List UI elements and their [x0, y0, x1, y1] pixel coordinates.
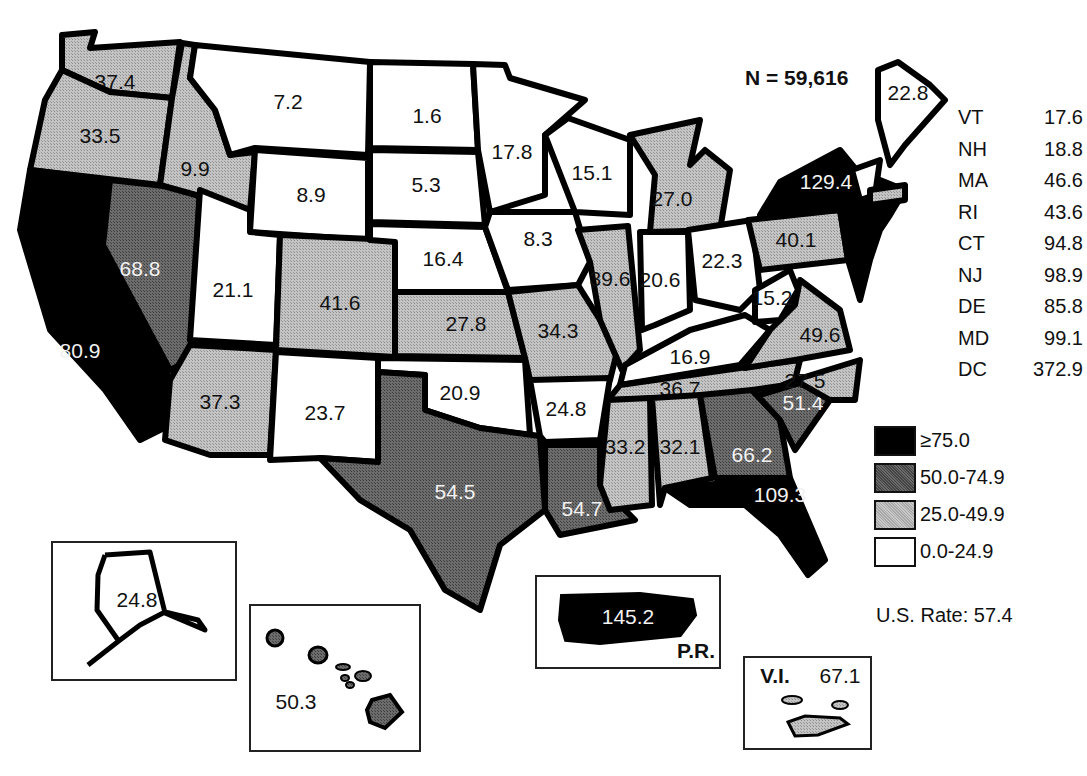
small-state-row: MA46.6 [958, 165, 1083, 197]
svg-text:22.8: 22.8 [888, 81, 929, 104]
state-MS: 33.2 [600, 398, 652, 510]
svg-text:24.8: 24.8 [546, 397, 587, 420]
us-rate-label: U.S. Rate: 57.4 [876, 604, 1013, 627]
state-WY: 8.9 [250, 150, 368, 240]
legend-item: 25.0-49.9 [874, 496, 1005, 533]
svg-text:37.3: 37.3 [200, 390, 241, 413]
legend-swatch-light-gray [874, 500, 916, 530]
small-states-table: VT17.6 NH18.8 MA46.6 RI43.6 CT94.8 NJ98.… [958, 102, 1083, 386]
state-FL: 109.3 [665, 478, 825, 575]
svg-text:27.8: 27.8 [446, 312, 487, 335]
inset-virgin-islands: V.I. 67.1 [744, 657, 871, 749]
svg-text:33.5: 33.5 [80, 124, 121, 147]
svg-text:27.5: 27.5 [785, 369, 826, 392]
small-state-row: DE85.8 [958, 291, 1083, 323]
svg-text:66.2: 66.2 [732, 443, 773, 466]
us-choropleth-map: 37.4 33.5 80.9 68.8 9.9 7.2 8.9 21.1 41.… [0, 0, 1087, 776]
svg-text:39.6: 39.6 [590, 267, 631, 290]
svg-text:67.1: 67.1 [820, 664, 861, 687]
inset-alaska: 24.8 [52, 542, 236, 680]
legend-item: ≥75.0 [874, 422, 1005, 459]
svg-text:16.9: 16.9 [670, 345, 711, 368]
svg-text:80.9: 80.9 [60, 339, 101, 362]
svg-text:34.3: 34.3 [538, 319, 579, 342]
legend-swatch-white [874, 537, 916, 567]
state-MI: 27.0 [630, 120, 730, 232]
svg-text:9.9: 9.9 [180, 157, 209, 180]
state-WI: 15.1 [545, 118, 630, 215]
svg-text:23.7: 23.7 [305, 401, 346, 424]
svg-text:129.4: 129.4 [800, 170, 853, 193]
state-IA: 8.3 [485, 212, 590, 290]
svg-text:33.2: 33.2 [605, 435, 646, 458]
svg-text:68.8: 68.8 [120, 257, 161, 280]
svg-text:32.1: 32.1 [660, 435, 701, 458]
svg-text:50.3: 50.3 [276, 690, 317, 713]
small-state-row: VT17.6 [958, 102, 1083, 134]
svg-text:40.1: 40.1 [776, 228, 817, 251]
inset-hawaii: 50.3 [250, 605, 420, 751]
state-NM: 23.7 [270, 352, 378, 462]
total-count-label: N = 59,616 [745, 66, 848, 90]
small-state-row: RI43.6 [958, 197, 1083, 229]
svg-text:8.9: 8.9 [296, 183, 325, 206]
svg-text:15.2: 15.2 [752, 286, 793, 309]
svg-text:20.6: 20.6 [640, 268, 681, 291]
svg-text:P.R.: P.R. [677, 639, 715, 662]
svg-text:27.0: 27.0 [652, 187, 693, 210]
svg-text:21.1: 21.1 [213, 278, 254, 301]
svg-text:15.1: 15.1 [572, 161, 613, 184]
svg-text:41.6: 41.6 [320, 291, 361, 314]
state-ND: 1.6 [370, 62, 478, 150]
svg-text:5.3: 5.3 [411, 173, 440, 196]
state-KS: 27.8 [395, 292, 525, 358]
state-ME: 22.8 [878, 62, 945, 165]
svg-text:1.6: 1.6 [412, 104, 441, 127]
svg-text:49.6: 49.6 [800, 323, 841, 346]
legend-item: 0.0-24.9 [874, 533, 1005, 570]
svg-text:8.3: 8.3 [523, 227, 552, 250]
state-IN: 20.6 [640, 232, 690, 330]
svg-text:54.7: 54.7 [562, 497, 603, 520]
small-state-row: MD99.1 [958, 323, 1083, 355]
small-state-row: CT94.8 [958, 228, 1083, 260]
small-state-row: DC372.9 [958, 354, 1083, 386]
small-state-row: NJ98.9 [958, 260, 1083, 292]
svg-text:22.3: 22.3 [702, 249, 743, 272]
svg-text:24.8: 24.8 [117, 588, 158, 611]
state-AR: 24.8 [530, 378, 610, 442]
inset-puerto-rico: 145.2 P.R. [536, 576, 720, 668]
state-AZ: 37.3 [165, 345, 276, 455]
svg-text:17.8: 17.8 [492, 140, 533, 163]
legend: ≥75.0 50.0-74.9 25.0-49.9 0.0-24.9 [874, 422, 1005, 570]
svg-text:109.3: 109.3 [754, 483, 807, 506]
legend-swatch-black [874, 426, 916, 456]
state-PA: 40.1 [748, 210, 848, 270]
legend-item: 50.0-74.9 [874, 459, 1005, 496]
svg-text:20.9: 20.9 [440, 381, 481, 404]
svg-text:V.I.: V.I. [760, 664, 790, 687]
svg-text:7.2: 7.2 [273, 90, 302, 113]
svg-text:16.4: 16.4 [423, 247, 464, 270]
state-CO: 41.6 [276, 235, 395, 357]
svg-text:54.5: 54.5 [435, 480, 476, 503]
state-SD: 5.3 [370, 150, 485, 225]
legend-swatch-dark-gray [874, 463, 916, 493]
state-NE-small [852, 160, 905, 205]
small-state-row: NH18.8 [958, 134, 1083, 166]
svg-text:145.2: 145.2 [602, 605, 655, 628]
